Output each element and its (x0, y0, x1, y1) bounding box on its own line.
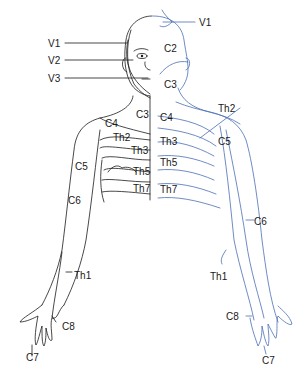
label-th3-right: Th3 (160, 136, 178, 147)
label-v1-left: V1 (48, 38, 61, 49)
label-th5-right: Th5 (160, 157, 178, 168)
label-c3-left: C3 (136, 109, 149, 120)
label-th7-left: Th7 (133, 183, 151, 194)
label-th7-right: Th7 (160, 184, 178, 195)
label-c7-right: C7 (262, 355, 275, 366)
label-th2-right: Th2 (218, 103, 236, 114)
label-c2-right: C2 (164, 43, 177, 54)
label-c4-right: C4 (160, 112, 173, 123)
label-th1-right: Th1 (210, 271, 228, 282)
label-c7-left: C7 (26, 352, 39, 363)
label-c8-right: C8 (226, 311, 239, 322)
label-v3-left: V3 (48, 73, 61, 84)
label-v1-right: V1 (199, 17, 212, 28)
label-th2-left: Th2 (113, 132, 131, 143)
label-c8-left: C8 (62, 321, 75, 332)
label-c6-left: C6 (68, 195, 81, 206)
dermatome-diagram: V1 V2 V3 V1 C2 C3 C3 C4 Th2 Th3 Th5 Th7 … (0, 0, 297, 380)
label-c5-right: C5 (218, 136, 231, 147)
label-th3-left: Th3 (131, 145, 149, 156)
label-c6-right: C6 (254, 216, 267, 227)
label-c5-left: C5 (75, 161, 88, 172)
label-th5-left: Th5 (133, 166, 151, 177)
right-body-outline (153, 10, 292, 354)
label-c3-right: C3 (164, 79, 177, 90)
label-v2-left: V2 (48, 55, 61, 66)
label-th1-left: Th1 (74, 270, 92, 281)
label-c4-left: C4 (105, 118, 118, 129)
